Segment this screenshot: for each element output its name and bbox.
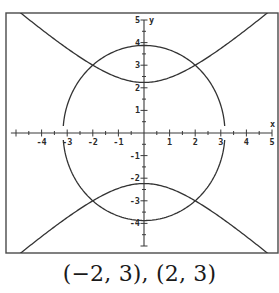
intersection-points-caption: (−2, 3), (2, 3) xyxy=(0,261,279,286)
y-tick-label: 2 xyxy=(135,83,140,93)
y-tick-label: -1 xyxy=(130,151,140,161)
graph-plot: -4-3-2-112345-4-3-2-112345 x y xyxy=(0,0,279,260)
y-tick-label: -3 xyxy=(130,196,140,206)
y-tick-label: -2 xyxy=(130,173,140,183)
y-tick-label: 3 xyxy=(135,60,140,70)
x-tick-label: 5 xyxy=(269,137,274,147)
x-tick-label: 4 xyxy=(244,137,249,147)
y-axis-label: y xyxy=(149,15,154,25)
x-axis-label: x xyxy=(270,119,275,129)
x-tick-label: -2 xyxy=(88,137,98,147)
x-tick-label: -1 xyxy=(113,137,123,147)
x-tick-label: 3 xyxy=(218,137,223,147)
axes xyxy=(11,20,272,246)
x-tick-label: -4 xyxy=(36,137,46,147)
y-tick-label: 1 xyxy=(135,105,140,115)
x-tick-label: 1 xyxy=(167,137,172,147)
x-tick-label: 2 xyxy=(193,137,198,147)
y-tick-label: 5 xyxy=(135,15,140,25)
